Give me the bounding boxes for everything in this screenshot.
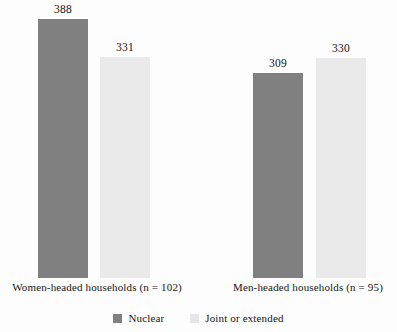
bar-women-joint[interactable] (100, 57, 150, 278)
legend-label-joint-or-extended: Joint or extended (205, 311, 283, 325)
bar-value-women-joint: 331 (100, 41, 150, 54)
bar-chart: 388 331 309 330 Women-headed households … (0, 0, 397, 332)
category-label-men: Men-headed households (n = 95) (219, 280, 397, 295)
legend-swatch-icon-joint-or-extended (190, 314, 199, 323)
legend-label-nuclear: Nuclear (128, 311, 164, 325)
category-label-women: Women-headed households (n = 102) (0, 280, 194, 295)
bar-men-joint[interactable] (316, 58, 366, 278)
legend-item-joint-or-extended[interactable]: Joint or extended (190, 311, 283, 325)
bar-men-nuclear[interactable] (253, 73, 303, 278)
plot-area: 388 331 309 330 (0, 0, 397, 278)
chart-legend: Nuclear Joint or extended (0, 308, 397, 328)
bar-value-men-joint: 330 (316, 42, 366, 55)
bar-women-nuclear[interactable] (38, 19, 88, 278)
bar-value-women-nuclear: 388 (38, 3, 88, 16)
category-axis: Women-headed households (n = 102) Men-he… (0, 280, 397, 300)
legend-swatch-icon-nuclear (113, 314, 122, 323)
bar-value-men-nuclear: 309 (253, 57, 303, 70)
legend-item-nuclear[interactable]: Nuclear (113, 311, 164, 325)
